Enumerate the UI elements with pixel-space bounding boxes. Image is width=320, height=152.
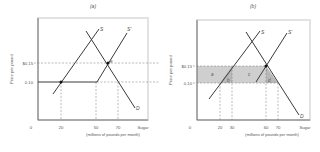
- panel-b-title: (b): [250, 3, 256, 9]
- panel-b-xtick-0: 0: [189, 125, 192, 130]
- panel-a-x-axis-subtitle: (millions of pounds per month): [86, 132, 140, 137]
- panel-a-xtick-70: 70: [116, 125, 121, 130]
- panel-b: (b) S S' D a b c d Price per pound: [168, 3, 311, 137]
- panel-b-y-axis-title: Price per pound: [168, 55, 173, 85]
- panel-a-xtick-50: 50: [94, 125, 99, 130]
- panel-b-xtick-20: 20: [218, 125, 223, 130]
- panel-b-label-d: D: [300, 113, 304, 119]
- panel-a-xtick-20: 20: [59, 125, 64, 130]
- panel-b-ytick-010: 0.10: [184, 81, 193, 86]
- panel-a-xtick-0: 0: [30, 125, 33, 130]
- panel-a-point-20: [60, 81, 63, 84]
- panel-a-title: (a): [90, 3, 96, 9]
- panel-b-x-axis-title: Sugar: [299, 125, 311, 130]
- figure: (a) S S' D e Price per pound $0.15 0.10 …: [0, 0, 320, 152]
- panel-a-plot-area: [38, 18, 148, 120]
- panel-a-label-d: D: [136, 105, 140, 111]
- panel-b-xtick-60: 60: [264, 125, 269, 130]
- panel-a: (a) S S' D e Price per pound $0.15 0.10 …: [9, 3, 160, 137]
- panel-b-point-60: [265, 65, 268, 68]
- panel-b-xtick-30: 30: [230, 125, 235, 130]
- panel-b-xtick-70: 70: [276, 125, 281, 130]
- panel-a-x-axis-title: Sugar: [137, 125, 149, 130]
- panel-b-ytick-015: $0.15: [182, 64, 193, 69]
- panel-a-ytick-015: $0.15: [23, 61, 34, 66]
- panel-a-y-axis-title: Price per pound: [9, 54, 14, 84]
- panel-b-x-axis-subtitle: (millions of pounds per month): [245, 132, 299, 137]
- panel-a-ytick-010: 0.10: [25, 80, 34, 85]
